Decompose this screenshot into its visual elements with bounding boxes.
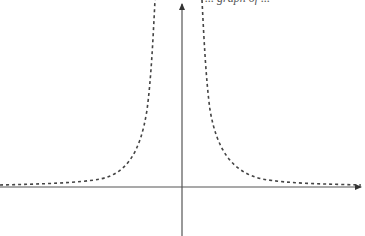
- curve-right-branch: [202, 0, 361, 185]
- curve-left-branch: [0, 0, 155, 185]
- function-graph: [0, 0, 365, 236]
